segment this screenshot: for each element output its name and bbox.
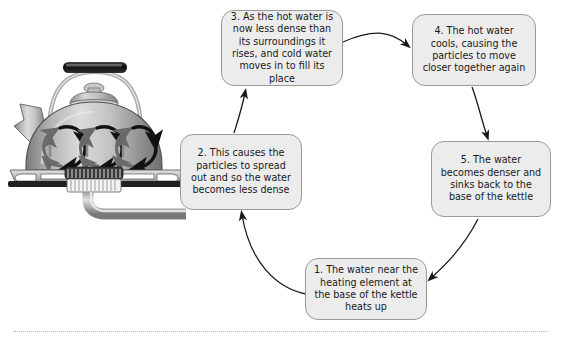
flow-node-text: 1. The water near the heating element at… [313, 264, 419, 314]
flow-node-hot-water-cools[interactable]: 4. The hot water cools, causing the part… [412, 14, 536, 86]
gas-hob [8, 167, 186, 214]
burner-head [65, 167, 123, 179]
flow-node-water-near-heating-element[interactable]: 1. The water near the heating element at… [305, 258, 427, 320]
handle-grip [63, 62, 127, 73]
flow-node-water-sinks-back[interactable]: 5. The water becomes denser and sinks ba… [431, 141, 551, 217]
edge-4-to-5-path [472, 87, 487, 136]
diagram-page: 3. As the hot water is now less dense th… [0, 0, 561, 350]
flow-node-text: 3. As the hot water is now less dense th… [229, 11, 335, 85]
flow-node-text: 2. This causes the particles to spread o… [188, 147, 294, 197]
flow-node-text: 4. The hot water cools, causing the part… [420, 25, 528, 75]
edge-2-to-3-path [234, 93, 245, 133]
kettle-svg [8, 52, 186, 237]
edge-3-to-4-path [343, 33, 407, 45]
flow-node-hot-water-rises[interactable]: 3. As the hot water is now less dense th… [221, 10, 343, 86]
kettle-illustration [8, 52, 186, 237]
flow-node-text: 5. The water becomes denser and sinks ba… [439, 154, 543, 204]
edge-1-to-2-path [242, 215, 306, 294]
page-divider [14, 331, 548, 333]
flow-node-particles-spread-out[interactable]: 2. This causes the particles to spread o… [180, 134, 302, 210]
edge-5-to-1-path [431, 219, 478, 278]
